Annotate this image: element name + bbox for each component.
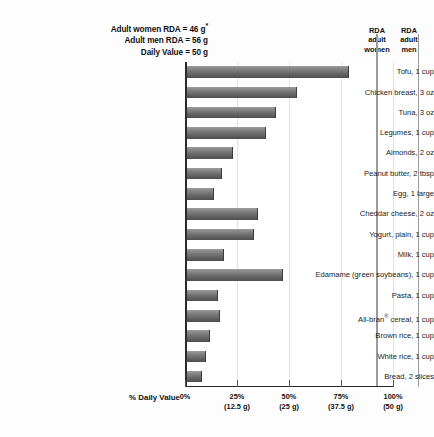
x-tick-label: 75%(37.5 g) <box>311 392 371 412</box>
category-label: Cheddar cheese, 2 oz <box>256 209 434 219</box>
x-tick-label-percent: 50% <box>282 392 297 401</box>
bar <box>186 127 266 139</box>
category-label: Brown rice, 1 cup <box>256 331 434 341</box>
y-axis-line <box>185 62 187 387</box>
bar <box>186 229 254 241</box>
category-label: Bread, 2 slices <box>256 372 434 382</box>
x-axis-title: % Daily Value <box>100 393 180 402</box>
rda-men-label: RDA adult men <box>392 26 426 54</box>
rda-header-note: Adult women RDA = 46 g* Adult men RDA = … <box>8 20 208 58</box>
bar <box>186 371 202 383</box>
x-tick-label-percent: 25% <box>230 392 245 401</box>
x-tick-label-grams: (12.5 g) <box>207 402 267 412</box>
bar <box>186 351 206 363</box>
bar <box>186 330 210 342</box>
header-line-daily-value: Daily Value = 50 g <box>8 47 208 59</box>
header-line-women: Adult women RDA = 46 g* <box>8 20 208 35</box>
category-label: All-bran® cereal, 1 cup <box>256 311 434 325</box>
bar <box>186 147 233 159</box>
x-tick-label: 25%(12.5 g) <box>207 392 267 412</box>
bar <box>186 249 224 261</box>
registered-mark-icon: ® <box>384 313 388 319</box>
category-label: Almonds, 2 oz <box>256 148 434 158</box>
x-tick-label-grams: (37.5 g) <box>311 402 371 412</box>
header-line-men: Adult men RDA = 56 g <box>8 35 208 47</box>
bar <box>186 168 222 180</box>
x-tick-label-grams: (50 g) <box>363 402 423 412</box>
category-label: Yogurt, plain, 1 cup <box>256 230 434 240</box>
category-label: Milk, 1 cup <box>256 250 434 260</box>
category-label: Peanut butter, 2 tbsp <box>256 169 434 179</box>
category-label: White rice, 1 cup <box>256 352 434 362</box>
category-label: Edamame (green soybeans), 1 cup <box>256 270 434 280</box>
asterisk-marker: * <box>205 22 208 29</box>
category-label: Tuna, 3 oz <box>256 108 434 118</box>
protein-sources-chart-figure: Adult women RDA = 46 g* Adult men RDA = … <box>0 0 434 437</box>
x-tick-label-percent: 75% <box>334 392 349 401</box>
x-tick-label: 50%(25 g) <box>259 392 319 412</box>
category-label: Legumes, 1 cup <box>256 128 434 138</box>
x-tick-label-percent: 100% <box>384 392 403 401</box>
category-label: Chicken breast, 3 oz <box>256 88 434 98</box>
bar <box>186 290 218 302</box>
x-tick-0 <box>185 380 186 387</box>
x-tick-label: 100%(50 g) <box>363 392 423 412</box>
x-tick-label-grams: (25 g) <box>259 402 319 412</box>
x-tick-25 <box>237 380 238 387</box>
category-label: Pasta, 1 cup <box>256 291 434 301</box>
category-label: Egg, 1 large <box>256 189 434 199</box>
bar <box>186 188 214 200</box>
x-tick-label-percent: 0% <box>180 392 191 401</box>
category-label: Tofu, 1 cup <box>256 67 434 77</box>
bar <box>186 310 220 322</box>
bar <box>186 208 258 220</box>
